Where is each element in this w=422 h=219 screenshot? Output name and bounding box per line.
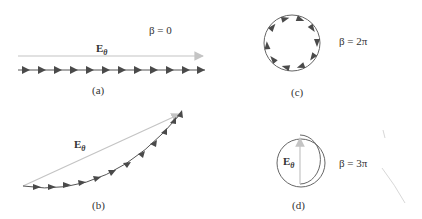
- resultant-arrow-b: [23, 114, 180, 186]
- phasor-diagram: [0, 0, 422, 219]
- panel-c: [264, 15, 320, 71]
- vector-label-a: Eθ: [96, 42, 108, 57]
- beta-label-c: β = 2π: [339, 35, 367, 47]
- scan-artifact: [382, 130, 405, 203]
- caption-a: (a): [92, 84, 104, 96]
- caption-c: (c): [291, 86, 303, 98]
- beta-label-d: β = 3π: [339, 157, 367, 169]
- panel-b: [23, 110, 183, 190]
- caption-b: (b): [92, 199, 105, 211]
- beta-label-a: β = 0: [149, 24, 172, 36]
- panel-a: [18, 56, 205, 74]
- chain-arrowheads-b: [33, 110, 183, 190]
- vector-label-d: Eθ: [283, 155, 295, 170]
- phasor-chain-a: [18, 66, 205, 74]
- phasor-circle-c: [264, 15, 320, 71]
- caption-d: (d): [292, 199, 305, 211]
- phasor-arc-inner-d: [300, 135, 320, 184]
- vector-label-b: Eθ: [74, 138, 86, 153]
